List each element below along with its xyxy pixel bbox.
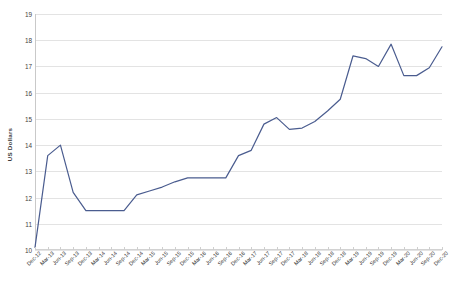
x-tick-mark-mar-18 [302,247,303,250]
x-tick-mark-dec-17 [289,247,290,250]
y-tick-label-15: 15 [18,115,32,122]
x-tick-mark-dec-20 [442,247,443,250]
y-tick-label-14: 14 [18,142,32,149]
x-tick-mark-jun-19 [366,247,367,250]
y-tick-label-16: 16 [18,89,32,96]
x-tick-mark-jun-15 [162,247,163,250]
plot-area [35,14,442,250]
x-tick-mark-mar-17 [251,247,252,250]
x-tick-mark-jun-16 [213,247,214,250]
x-tick-mark-sep-15 [175,247,176,250]
x-tick-mark-mar-20 [404,247,405,250]
x-tick-mark-mar-16 [200,247,201,250]
x-tick-mark-mar-15 [149,247,150,250]
x-tick-mark-jun-18 [315,247,316,250]
x-axis-tick-labels: Dec-12Mar-13Jun-13Sep-13Dec-13Mar-14Jun-… [35,250,442,288]
x-tick-mark-sep-14 [124,247,125,250]
y-tick-label-11: 11 [18,220,32,227]
x-tick-mark-dec-16 [239,247,240,250]
x-tick-mark-jun-13 [60,247,61,250]
y-axis-title-label: US Dollars [7,127,14,160]
x-tick-mark-jun-20 [417,247,418,250]
x-tick-mark-dec-14 [137,247,138,250]
y-tick-label-13: 13 [18,168,32,175]
x-tick-mark-dec-15 [188,247,189,250]
series-line-us-dollars [35,14,442,250]
series-polyline [35,44,442,247]
y-tick-label-17: 17 [18,63,32,70]
x-tick-mark-mar-19 [353,247,354,250]
x-tick-mark-dec-18 [340,247,341,250]
x-tick-mark-sep-19 [378,247,379,250]
y-tick-label-10: 10 [18,247,32,254]
x-tick-mark-jun-14 [111,247,112,250]
y-tick-label-12: 12 [18,194,32,201]
x-tick-mark-sep-13 [73,247,74,250]
x-tick-mark-dec-19 [391,247,392,250]
x-tick-mark-jun-17 [264,247,265,250]
y-tick-label-18: 18 [18,37,32,44]
x-tick-mark-sep-20 [429,247,430,250]
y-axis-title: US Dollars [2,0,18,288]
y-axis-tick-labels: 10111213141516171819 [18,0,32,288]
x-tick-mark-sep-17 [277,247,278,250]
y-tick-label-19: 19 [18,11,32,18]
x-tick-mark-sep-16 [226,247,227,250]
x-tick-mark-dec-12 [35,247,36,250]
x-tick-mark-dec-13 [86,247,87,250]
x-tick-mark-mar-14 [99,247,100,250]
x-tick-mark-mar-13 [48,247,49,250]
x-tick-mark-sep-18 [328,247,329,250]
